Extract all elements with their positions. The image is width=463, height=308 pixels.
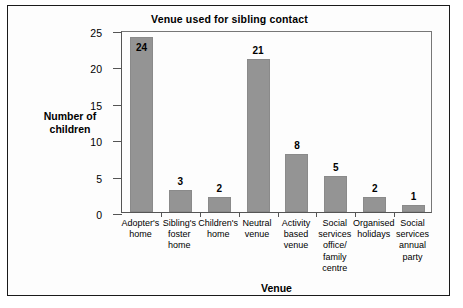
x-axis-tick: [200, 212, 201, 217]
bar[interactable]: 21: [247, 59, 270, 212]
bar[interactable]: 3: [169, 190, 192, 212]
x-axis-category-label-line: services: [390, 229, 436, 240]
x-axis-tick: [355, 212, 356, 217]
y-axis-tick: 25: [113, 32, 122, 33]
x-axis-tick: [161, 212, 162, 217]
bar-value-label: 3: [178, 176, 184, 187]
x-axis-category-label: Socialservicesannualparty: [390, 218, 436, 263]
y-axis-title-line-2: children: [26, 123, 114, 136]
y-axis-tick: 20: [113, 68, 122, 69]
y-axis-tick-label: 0: [96, 209, 102, 221]
chart-title: Venue used for sibling contact: [8, 13, 451, 25]
x-axis-tick: [239, 212, 240, 217]
y-axis-title: Number of children: [26, 110, 114, 135]
bar[interactable]: 2: [363, 197, 386, 212]
x-axis-category-label-line: Social: [390, 218, 436, 229]
x-axis-tick: [278, 212, 279, 217]
bar-value-label: 24: [136, 42, 147, 53]
y-axis-tick: 10: [113, 141, 122, 142]
y-axis-tick-label: 10: [90, 136, 102, 148]
bar-value-label: 1: [411, 191, 417, 202]
bar-value-label: 21: [253, 45, 264, 56]
x-axis-category-label-line: family: [312, 252, 358, 263]
y-axis-tick-label: 25: [90, 27, 102, 39]
bar[interactable]: 24: [130, 37, 153, 212]
y-axis-title-line-1: Number of: [26, 110, 114, 123]
y-axis-tick: 15: [113, 105, 122, 106]
bar[interactable]: 2: [208, 197, 231, 212]
x-axis-category-label-line: centre: [312, 263, 358, 274]
y-axis-tick-label: 5: [96, 173, 102, 185]
x-axis-category-label-line: party: [390, 252, 436, 263]
y-axis-tick: 5: [113, 178, 122, 179]
x-axis-category-label-line: office/: [312, 240, 358, 251]
bar[interactable]: 5: [324, 176, 347, 212]
y-axis-tick: 0: [113, 214, 122, 215]
bar-value-label: 5: [333, 162, 339, 173]
y-axis-tick-label: 20: [90, 63, 102, 75]
plot-area: 0510152025 2432218521: [121, 31, 432, 213]
x-axis-category-label-line: home: [156, 240, 202, 251]
bar[interactable]: 1: [402, 205, 425, 212]
bar-value-label: 2: [372, 183, 378, 194]
x-axis-category-label-line: annual: [390, 240, 436, 251]
x-axis-tick: [316, 212, 317, 217]
bar[interactable]: 8: [285, 154, 308, 212]
x-axis-title: Venue: [121, 282, 432, 294]
x-axis-tick: [394, 212, 395, 217]
y-axis-tick-label: 15: [90, 100, 102, 112]
figure-frame: Venue used for sibling contact Number of…: [7, 5, 450, 296]
bar-value-label: 2: [216, 183, 222, 194]
bar-value-label: 8: [294, 140, 300, 151]
